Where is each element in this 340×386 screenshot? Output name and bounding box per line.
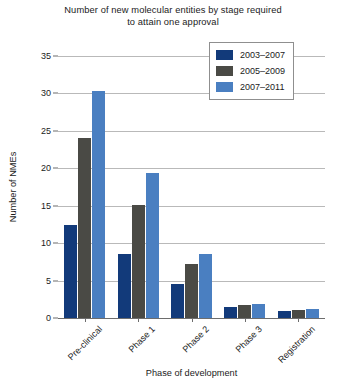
x-category-label: Registration bbox=[276, 324, 317, 365]
bar bbox=[146, 173, 159, 318]
legend-label: 2005–2009 bbox=[240, 66, 285, 76]
bar bbox=[118, 254, 131, 318]
bar bbox=[278, 311, 291, 318]
bar bbox=[238, 305, 251, 318]
legend-item: 2007–2011 bbox=[216, 79, 285, 95]
bar bbox=[185, 264, 198, 318]
chart-legend: 2003–20072005–20092007–2011 bbox=[209, 42, 294, 100]
x-category-label: Pre-clinical bbox=[66, 324, 104, 362]
x-tick-mark bbox=[85, 318, 86, 322]
x-category-label: Phase 1 bbox=[127, 324, 157, 354]
x-tick-mark bbox=[138, 318, 139, 322]
y-tick-label: 5 bbox=[46, 276, 51, 286]
x-category-label: Phase 2 bbox=[180, 324, 210, 354]
y-axis-title: Number of NMEs bbox=[6, 56, 20, 318]
x-axis-title: Phase of development bbox=[58, 368, 325, 378]
legend-label: 2007–2011 bbox=[240, 82, 284, 92]
bar-group bbox=[58, 56, 111, 318]
y-tick-label: 15 bbox=[41, 201, 51, 211]
bar bbox=[306, 309, 319, 318]
bar bbox=[171, 284, 184, 318]
y-tick-label: 10 bbox=[41, 238, 51, 248]
y-tick-label: 35 bbox=[41, 51, 51, 61]
bar bbox=[132, 205, 145, 318]
bar-group bbox=[111, 56, 164, 318]
x-tick-mark bbox=[192, 318, 193, 322]
legend-swatch bbox=[216, 66, 233, 76]
x-category-label: Phase 3 bbox=[234, 324, 264, 354]
y-tick-label: 30 bbox=[41, 88, 51, 98]
y-tick-label: 25 bbox=[41, 126, 51, 136]
y-tick-label: 20 bbox=[41, 163, 51, 173]
legend-swatch bbox=[216, 82, 233, 92]
chart-title-line-1: Number of new molecular entities by stag… bbox=[28, 4, 318, 16]
x-tick-mark bbox=[245, 318, 246, 322]
bar bbox=[199, 254, 212, 318]
legend-item: 2003–2007 bbox=[216, 47, 285, 63]
chart-title: Number of new molecular entities by stag… bbox=[28, 4, 318, 28]
legend-item: 2005–2009 bbox=[216, 63, 285, 79]
legend-label: 2003–2007 bbox=[240, 50, 285, 60]
bar bbox=[224, 307, 237, 318]
bar-chart: Number of new molecular entities by stag… bbox=[0, 0, 340, 386]
y-axis-title-label: Number of NMEs bbox=[8, 152, 18, 222]
bar bbox=[92, 91, 105, 318]
bar bbox=[78, 138, 91, 318]
y-tick-label: 0 bbox=[46, 313, 51, 323]
x-tick-mark bbox=[298, 318, 299, 322]
chart-title-line-2: to attain one approval bbox=[28, 16, 318, 28]
bar bbox=[292, 310, 305, 318]
legend-swatch bbox=[216, 50, 233, 60]
bar bbox=[64, 225, 77, 318]
bar bbox=[252, 304, 265, 318]
